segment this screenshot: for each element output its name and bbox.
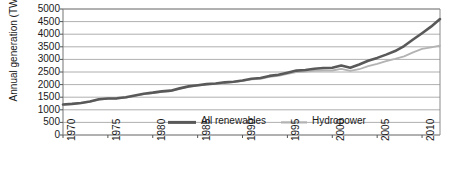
line-chart: Annual generation (TWh) 5000450040003500…	[0, 0, 453, 188]
x-tick-label: 1980	[157, 119, 167, 141]
legend-label-hydropower: Hydropower	[312, 116, 366, 126]
x-tick-label: 1970	[67, 119, 77, 141]
x-tick-label: 2005	[381, 119, 391, 141]
x-tick-label: 2010	[426, 119, 436, 141]
x-axis-tick-labels: 197019751980198519901995200020052010	[0, 0, 453, 188]
legend-label-all-renewables: All renewables	[201, 116, 266, 126]
x-tick-label: 1975	[112, 119, 122, 141]
x-tick-label: 1995	[291, 119, 301, 141]
